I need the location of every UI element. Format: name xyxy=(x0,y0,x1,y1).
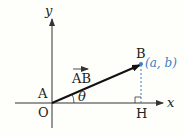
vector-ab xyxy=(52,65,140,103)
point-b-dot xyxy=(139,62,143,66)
x-axis-label: x xyxy=(167,96,174,109)
point-h-label: H xyxy=(136,107,147,120)
angle-arc xyxy=(72,94,74,103)
angle-label: θ xyxy=(78,90,86,103)
vector-label: AB xyxy=(72,72,91,85)
coord-label: (a, b) xyxy=(145,57,177,69)
point-o-label: O xyxy=(38,106,49,119)
point-a-label: A xyxy=(38,87,47,100)
y-axis-label: y xyxy=(45,4,52,17)
right-angle-mark xyxy=(135,97,141,103)
